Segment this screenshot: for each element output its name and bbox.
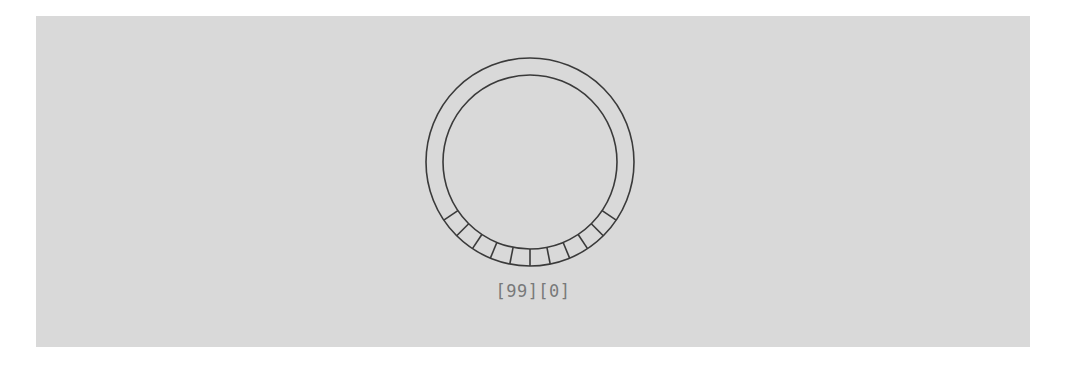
ring-tick bbox=[510, 247, 513, 264]
ring-tick bbox=[547, 247, 550, 264]
ring-tick bbox=[578, 234, 587, 248]
figure-canvas: [99][0] bbox=[0, 0, 1066, 366]
ring-tick bbox=[602, 211, 616, 221]
ring-inner-circle bbox=[443, 75, 617, 249]
ring-tick bbox=[444, 211, 458, 221]
ring-index-label: [99][0] bbox=[0, 281, 1066, 301]
ring-tick bbox=[591, 224, 603, 236]
ring-tick bbox=[490, 242, 496, 258]
ring-tick bbox=[472, 234, 481, 248]
ring-dial-graphic bbox=[0, 0, 1066, 366]
ring-tick-marks bbox=[444, 211, 616, 266]
ring-dial-svg bbox=[0, 0, 1066, 366]
ring-tick bbox=[457, 224, 469, 236]
ring-tick bbox=[563, 242, 569, 258]
